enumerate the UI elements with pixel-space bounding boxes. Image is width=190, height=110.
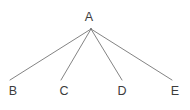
node-label-c: C: [59, 85, 68, 98]
edges-group: [10, 29, 172, 80]
root-vertex-group: [90, 28, 92, 30]
edge-a-e: [91, 29, 172, 80]
node-label-e: E: [171, 85, 180, 98]
root-vertex-point: [90, 28, 92, 30]
node-label-d: D: [117, 85, 126, 98]
edge-a-d: [91, 29, 122, 80]
node-label-b: B: [9, 85, 18, 98]
edge-a-b: [10, 29, 91, 80]
edge-layer: [0, 0, 190, 110]
edge-a-c: [61, 29, 91, 80]
node-label-a: A: [85, 11, 94, 24]
tree-diagram: A B C D E: [0, 0, 190, 110]
